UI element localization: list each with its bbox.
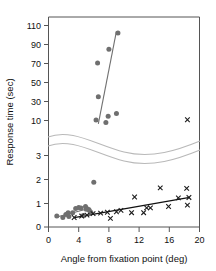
upper-fit [98, 31, 116, 124]
y-tick-0: 0 [36, 222, 41, 232]
data-point-circle [106, 47, 111, 52]
y-tick-3: 3 [36, 151, 41, 161]
data-point-circle [91, 180, 96, 185]
x-tick-16: 16 [164, 235, 174, 245]
y-tick-70: 70 [31, 59, 41, 69]
x-tick-4: 4 [76, 235, 81, 245]
lower-circle-markers [54, 180, 96, 220]
data-point-cross [141, 210, 146, 215]
data-point-circle [70, 210, 75, 215]
y-tick-labels-lower: 3 2 1 0 [36, 151, 41, 232]
y-axis-ticks-upper [44, 26, 49, 121]
data-point-circle [95, 61, 100, 66]
data-point-cross [184, 186, 189, 191]
data-point-circle [114, 111, 119, 116]
data-point-circle [54, 214, 59, 219]
data-point-cross [185, 203, 190, 208]
y-tick-50: 50 [31, 78, 41, 88]
data-point-circle [78, 205, 83, 210]
x-tick-12: 12 [134, 235, 144, 245]
data-point-circle [94, 118, 99, 123]
data-point-circle [115, 31, 120, 36]
data-point-cross [185, 117, 190, 122]
y-tick-2: 2 [36, 175, 41, 185]
scatter-chart-svg: 110 90 70 50 30 10 3 2 1 0 [0, 0, 216, 271]
x-tick-8: 8 [106, 235, 111, 245]
y-axis-ticks-lower [44, 156, 49, 228]
data-point-cross [108, 216, 113, 221]
y-tick-10: 10 [31, 116, 41, 126]
data-point-circle [106, 114, 111, 119]
figure: 110 90 70 50 30 10 3 2 1 0 [0, 0, 216, 271]
x-tick-0: 0 [46, 235, 51, 245]
data-point-circle [66, 214, 71, 219]
upper-regression-line [98, 31, 116, 124]
x-axis-label: Angle from fixation point (deg) [61, 253, 188, 264]
x-axis-ticks [49, 227, 200, 232]
data-point-circle [103, 120, 108, 125]
axis-frame [49, 17, 200, 227]
y-tick-90: 90 [31, 40, 41, 50]
y-tick-30: 30 [31, 97, 41, 107]
data-point-cross [166, 204, 171, 209]
data-point-cross [148, 206, 153, 211]
y-tick-110: 110 [27, 21, 41, 31]
axis-break-squiggle [48, 131, 200, 164]
x-tick-labels: 0 4 8 12 16 20 [46, 235, 205, 245]
data-point-cross [129, 210, 134, 215]
y-axis-label: Response time (sec) [4, 78, 15, 165]
data-point-circle [96, 94, 101, 99]
data-point-cross [132, 195, 137, 200]
upper-cross-markers [185, 117, 190, 122]
y-tick-1: 1 [36, 199, 41, 209]
data-point-cross [158, 186, 163, 191]
y-tick-labels-upper: 110 90 70 50 30 10 [27, 21, 41, 126]
x-tick-20: 20 [194, 235, 204, 245]
